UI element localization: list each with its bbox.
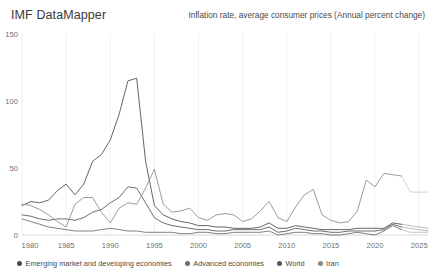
legend-marker-icon: [17, 261, 22, 266]
legend-item-1[interactable]: Advanced economies: [185, 259, 264, 268]
legend-label: Emerging market and developing economies: [26, 259, 172, 268]
x-axis-tick-label: 2005: [234, 241, 251, 248]
y-axis-tick-label: 100: [5, 97, 18, 106]
chart-area: 0501001501980198519901995200020052010201…: [0, 26, 431, 248]
x-axis-tick-label: 2000: [190, 241, 207, 248]
legend-item-0[interactable]: Emerging market and developing economies: [17, 259, 172, 268]
legend-item-2[interactable]: World: [277, 259, 305, 268]
x-axis-tick-label: 2010: [278, 241, 295, 248]
x-axis-tick-label: 1985: [58, 241, 75, 248]
x-axis-tick-label: 1980: [22, 241, 39, 248]
series-projection-3: [402, 176, 429, 192]
legend-marker-icon: [277, 261, 282, 266]
legend-item-3[interactable]: Iran: [318, 259, 339, 268]
x-axis-tick-label: 2025: [411, 241, 428, 248]
brand-title: IMF DataMapper: [11, 8, 106, 22]
series-line-2: [22, 187, 402, 233]
legend-marker-icon: [185, 261, 190, 266]
x-axis-tick-label: 2015: [322, 241, 339, 248]
legend-label: Iran: [326, 259, 339, 268]
x-axis-tick-label: 1995: [146, 241, 163, 248]
y-axis-tick-label: 150: [5, 30, 18, 39]
series-line-3: [22, 169, 402, 227]
y-axis-tick-label: 0: [14, 231, 18, 240]
x-axis-tick-label: 1990: [102, 241, 119, 248]
legend-label: World: [285, 259, 304, 268]
series-line-0: [22, 78, 402, 229]
chart-legend: Emerging market and developing economies…: [0, 255, 431, 271]
chart-header: IMF DataMapper Inflation rate, average c…: [0, 0, 431, 26]
y-axis-tick-label: 50: [10, 164, 18, 173]
legend-marker-icon: [318, 261, 323, 266]
line-chart: 0501001501980198519901995200020052010201…: [0, 26, 431, 248]
series-line-1: [22, 219, 402, 235]
chart-subtitle: Inflation rate, average consumer prices …: [188, 10, 425, 20]
x-axis-tick-label: 2020: [367, 241, 384, 248]
legend-label: Advanced economies: [193, 259, 264, 268]
